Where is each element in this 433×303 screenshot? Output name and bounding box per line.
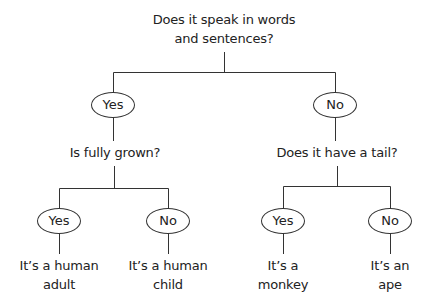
result-line1: It’s a human (19, 256, 98, 275)
root-question-line1: Does it speak in words (153, 10, 296, 29)
result-line2: child (128, 275, 207, 294)
result-line2: monkey (258, 275, 308, 294)
result-human-child: It’s a human child (128, 256, 207, 294)
result-human-adult: It’s a human adult (19, 256, 98, 294)
answer-yes-tail: Yes (261, 208, 305, 234)
result-line2: adult (19, 275, 98, 294)
result-ape: It’s an ape (371, 256, 410, 294)
answer-yes-speaks: Yes (91, 92, 135, 118)
result-monkey: It’s a monkey (258, 256, 308, 294)
question-has-tail: Does it have a tail? (276, 143, 397, 162)
result-line1: It’s an (371, 256, 410, 275)
answer-no-grown: No (146, 208, 190, 234)
answer-no-speaks: No (313, 92, 357, 118)
result-line1: It’s a (258, 256, 308, 275)
question-fully-grown: Is fully grown? (70, 143, 161, 162)
result-line2: ape (371, 275, 410, 294)
root-question: Does it speak in words and sentences? (153, 10, 296, 48)
root-question-line2: and sentences? (153, 29, 296, 48)
result-line1: It’s a human (128, 256, 207, 275)
answer-no-tail: No (368, 208, 412, 234)
answer-yes-grown: Yes (37, 208, 81, 234)
